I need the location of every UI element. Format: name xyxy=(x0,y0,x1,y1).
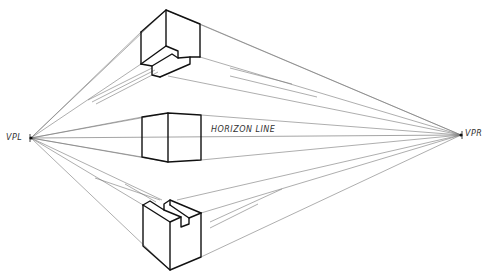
bottom-box xyxy=(143,200,201,270)
vpl-label: VPL xyxy=(6,133,22,142)
two-point-perspective-diagram xyxy=(0,0,494,278)
middle-box xyxy=(142,113,201,162)
horizon-line-label: HORIZON LINE xyxy=(211,125,275,134)
top-box xyxy=(141,10,200,77)
vpr-label: VPR xyxy=(465,129,482,138)
vpl-guide-lines xyxy=(31,10,170,270)
horizon-line xyxy=(31,135,461,138)
partial-guide-strokes xyxy=(88,68,317,228)
